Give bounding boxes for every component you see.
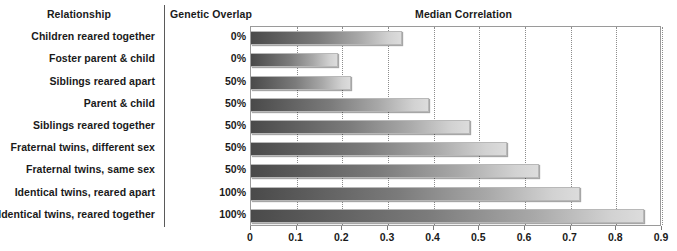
- genetic-overlap-value: 0%: [168, 52, 246, 64]
- genetic-overlap-value: 50%: [168, 97, 246, 109]
- genetic-overlap-column: 0%0%50%50%50%50%50%100%100%: [165, 0, 250, 251]
- x-tick-mark: [661, 226, 662, 230]
- plot-area: [250, 26, 661, 226]
- bar: [251, 187, 580, 201]
- x-tick-mark: [387, 226, 388, 230]
- x-tick-label: 0.7: [553, 231, 587, 243]
- bar: [251, 76, 351, 90]
- bar: [251, 164, 539, 178]
- genetic-overlap-value: 50%: [168, 141, 246, 153]
- gridline: [616, 27, 617, 225]
- relationship-label: Siblings reared apart: [0, 75, 155, 87]
- relationship-label: Foster parent & child: [0, 52, 155, 64]
- x-tick-label: 0.6: [507, 231, 541, 243]
- bar: [251, 31, 402, 45]
- genetic-overlap-value: 50%: [168, 75, 246, 87]
- x-tick-mark: [615, 226, 616, 230]
- x-tick-label: 0.8: [598, 231, 632, 243]
- x-tick-mark: [341, 226, 342, 230]
- genetic-overlap-value: 0%: [168, 30, 246, 42]
- x-tick-mark: [296, 226, 297, 230]
- x-axis: 00.10.20.30.40.50.60.70.80.9: [250, 226, 661, 251]
- bar: [251, 98, 429, 112]
- genetic-overlap-value: 100%: [168, 186, 246, 198]
- bar: [251, 209, 644, 223]
- genetic-overlap-value: 50%: [168, 163, 246, 175]
- x-tick-mark: [250, 226, 251, 230]
- x-tick-mark: [433, 226, 434, 230]
- relationship-label-column: Children reared togetherFoster parent & …: [0, 0, 165, 251]
- x-tick-mark: [570, 226, 571, 230]
- bar: [251, 142, 507, 156]
- x-tick-label: 0.5: [461, 231, 495, 243]
- relationship-label: Children reared together: [0, 30, 155, 42]
- x-tick-mark: [524, 226, 525, 230]
- x-tick-label: 0.4: [416, 231, 450, 243]
- x-tick-label: 0.1: [279, 231, 313, 243]
- x-tick-label: 0.2: [324, 231, 358, 243]
- relationship-label: Parent & child: [0, 97, 155, 109]
- x-tick-label: 0: [233, 231, 267, 243]
- chart-title: Median Correlation: [250, 8, 677, 20]
- x-tick-label: 0.3: [370, 231, 404, 243]
- x-tick-label: 0.9: [644, 231, 677, 243]
- bar: [251, 53, 338, 67]
- relationship-label: Siblings reared together: [0, 119, 155, 131]
- genetic-overlap-value: 100%: [168, 208, 246, 220]
- relationship-label: Identical twins, reared apart: [0, 186, 155, 198]
- relationship-label: Identical twins, reared together: [0, 208, 155, 220]
- gridline: [662, 27, 663, 225]
- relationship-label: Fraternal twins, different sex: [0, 141, 155, 153]
- x-tick-mark: [478, 226, 479, 230]
- relationship-label: Fraternal twins, same sex: [0, 163, 155, 175]
- bar: [251, 120, 470, 134]
- chart-root: Relationship Genetic Overlap Median Corr…: [0, 0, 677, 251]
- genetic-overlap-value: 50%: [168, 119, 246, 131]
